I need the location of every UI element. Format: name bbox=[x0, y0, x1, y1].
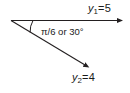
ray-y2-label: y2=4 bbox=[72, 72, 95, 85]
angle-measure-label: π/6 or 30° bbox=[41, 27, 84, 37]
geometry-diagram: y1=5 y2=4 π/6 or 30° bbox=[0, 0, 130, 93]
ray-y1-label: y1=5 bbox=[88, 3, 111, 16]
ray-y2-equals: = bbox=[82, 71, 89, 83]
ray-y1-equals: = bbox=[98, 2, 105, 14]
angle-arc-path bbox=[30, 21, 33, 33]
ray-y1-value: 5 bbox=[105, 2, 111, 14]
ray-y2-value: 4 bbox=[89, 71, 95, 83]
